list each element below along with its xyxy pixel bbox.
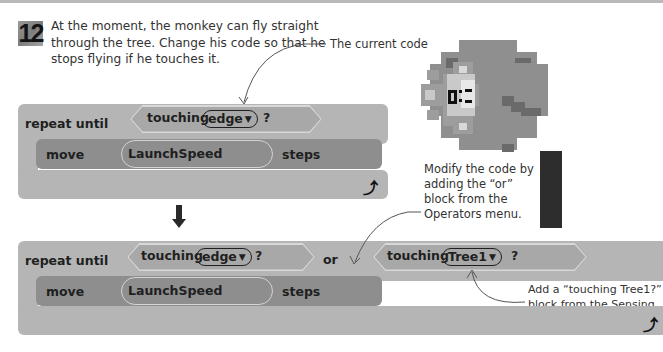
callout-lines: [0, 0, 663, 352]
callout-current-code: [244, 44, 326, 102]
callout-add-touching: [472, 272, 525, 302]
callout-modify-code: [355, 212, 421, 262]
